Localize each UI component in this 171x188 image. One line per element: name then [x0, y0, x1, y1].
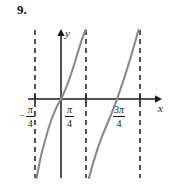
fraction-bar	[113, 116, 125, 117]
fraction-numerator: π	[66, 104, 73, 115]
fraction-numerator: π	[27, 104, 34, 115]
fraction-denominator: 4	[66, 118, 73, 129]
y-axis-arrowhead	[57, 29, 64, 36]
y-axis-label: y	[65, 28, 70, 39]
fraction-pi-over-4: π 4	[65, 104, 74, 129]
minus-sign: −	[19, 111, 25, 122]
tick-label-pi-over-4: π 4	[65, 104, 74, 129]
fraction-numerator: 3π	[113, 104, 125, 115]
graph-canvas	[0, 0, 171, 188]
fraction-neg-pi-over-4: π 4	[26, 104, 35, 129]
tick-label-neg-pi-over-4: − π 4	[19, 104, 35, 129]
curve-branch-2	[61, 30, 86, 99]
x-axis-label: x	[158, 103, 163, 114]
fraction-denominator: 4	[116, 118, 123, 129]
curve-branch-1	[37, 99, 62, 178]
figure-container: 9. y x	[0, 0, 171, 188]
fraction-denominator: 4	[27, 118, 34, 129]
fraction-three-pi-over-4: 3π 4	[113, 104, 125, 129]
x-axis	[28, 95, 162, 102]
tick-label-three-pi-over-4: 3π 4	[113, 104, 125, 129]
fraction-bar	[26, 116, 35, 117]
fraction-bar	[65, 116, 74, 117]
